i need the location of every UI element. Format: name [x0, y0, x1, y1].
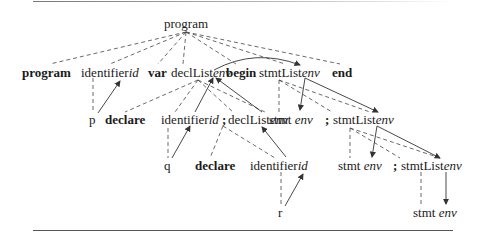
node-end-keyword: end [332, 66, 352, 80]
node-semicolon-2: ; [325, 113, 329, 127]
node-r: r [278, 206, 282, 220]
node-p: p [89, 113, 96, 127]
node-declare-keyword: declare [105, 113, 145, 127]
node-identifier: identifierid [81, 66, 139, 80]
node-identifier-3: identifierid [250, 159, 308, 173]
node-program-keyword: program [22, 66, 71, 80]
node-declare-keyword-2: declare [195, 159, 235, 173]
node-semicolon: ; [222, 113, 226, 127]
node-stmt-2: stmt env [338, 159, 382, 173]
node-stmt: stmt env [269, 113, 313, 127]
node-identifier-2: identifierid [161, 113, 219, 127]
node-stmtList-3: stmtListenv [401, 159, 462, 173]
node-stmt-3: stmt env [413, 206, 457, 220]
node-semicolon-3: ; [393, 159, 397, 173]
node-stmtList-2: stmtListenv [333, 113, 394, 127]
node-root-program: program [164, 17, 208, 31]
node-declList: declListenv [171, 66, 231, 80]
node-q: q [164, 159, 171, 173]
node-begin-keyword: begin [226, 66, 256, 80]
node-stmtList: stmtListenv [259, 66, 320, 80]
node-var-keyword: var [148, 66, 167, 80]
